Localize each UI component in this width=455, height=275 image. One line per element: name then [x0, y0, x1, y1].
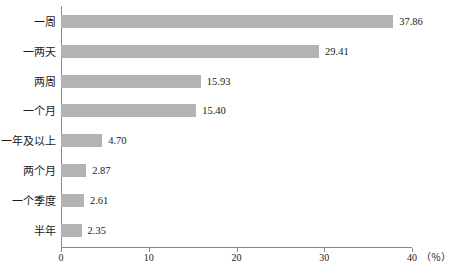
plot-area: 一周37.86一两天29.41两周15.93一个月15.40一年及以上4.70两… [0, 0, 455, 275]
bar-value-label: 2.35 [88, 223, 106, 239]
bar-value-label: 4.70 [108, 133, 126, 149]
x-tick-label: 40 [407, 252, 417, 264]
bar [61, 15, 393, 28]
bar-value-label: 15.93 [207, 74, 231, 90]
bar-row: 一周37.86 [0, 14, 455, 30]
bar [61, 194, 84, 207]
bar-row: 一两天29.41 [0, 44, 455, 60]
category-label: 一两天 [0, 44, 56, 60]
bar-value-label: 37.86 [399, 14, 423, 30]
bar [61, 224, 82, 237]
bar [61, 134, 102, 147]
category-label: 半年 [0, 223, 56, 239]
axis-unit-label: （％） [421, 252, 451, 264]
bar [61, 75, 201, 88]
category-label: 两周 [0, 74, 56, 90]
category-label: 一个月 [0, 103, 56, 119]
bar-chart: 一周37.86一两天29.41两周15.93一个月15.40一年及以上4.70两… [0, 0, 455, 275]
bar-value-label: 29.41 [325, 44, 349, 60]
x-tick-label: 30 [319, 252, 329, 264]
x-tick-label: 0 [59, 252, 64, 264]
bar-row: 两周15.93 [0, 74, 455, 90]
bar-row: 一年及以上4.70 [0, 133, 455, 149]
bar-row: 一个季度2.61 [0, 193, 455, 209]
x-tick-label: 20 [232, 252, 242, 264]
y-axis-line [61, 6, 62, 248]
x-tick-label: 10 [144, 252, 154, 264]
bar-row: 一个月15.40 [0, 103, 455, 119]
category-label: 两个月 [0, 163, 56, 179]
bar [61, 104, 196, 117]
bar [61, 164, 86, 177]
category-label: 一周 [0, 14, 56, 30]
category-label: 一个季度 [0, 193, 56, 209]
bar [61, 45, 319, 58]
bar-row: 两个月2.87 [0, 163, 455, 179]
bar-value-label: 2.61 [90, 193, 108, 209]
bar-row: 半年2.35 [0, 223, 455, 239]
category-label: 一年及以上 [0, 133, 56, 149]
bar-value-label: 2.87 [92, 163, 110, 179]
bar-value-label: 15.40 [202, 103, 226, 119]
